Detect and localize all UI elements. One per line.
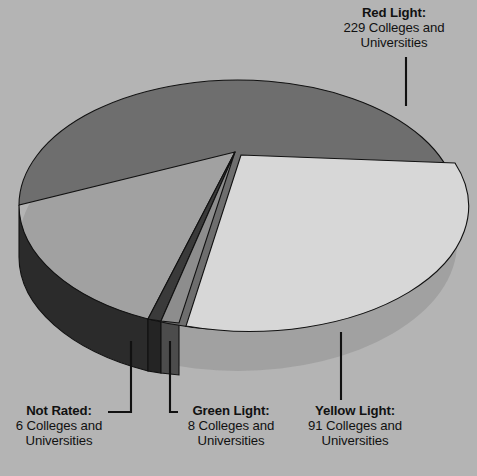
callout-label-yellow-light: Yellow Light: 91 Colleges and Universiti… [288, 404, 422, 448]
callout-line2-red-light: Universities [318, 36, 470, 51]
callout-title-green-light: Green Light: [168, 404, 294, 419]
callout-line2-green-light: Universities [168, 434, 294, 449]
callout-label-green-light: Green Light: 8 Colleges and Universities [168, 404, 294, 448]
callout-label-red-light: Red Light: 229 Colleges and Universities [318, 6, 470, 50]
callout-title-not-rated: Not Rated: [0, 404, 120, 419]
callout-title-yellow-light: Yellow Light: [288, 404, 422, 419]
callout-line1-yellow-light: 91 Colleges and [288, 419, 422, 434]
slice-side-not-rated [148, 319, 161, 373]
callout-line1-not-rated: 6 Colleges and [0, 419, 120, 434]
callout-line1-red-light: 229 Colleges and [318, 21, 470, 36]
callout-line2-not-rated: Universities [0, 434, 120, 449]
pie-chart-figure: Red Light: 229 Colleges and Universities… [0, 0, 477, 476]
callout-line1-green-light: 8 Colleges and [168, 419, 294, 434]
callout-line2-yellow-light: Universities [288, 434, 422, 449]
callout-title-red-light: Red Light: [318, 6, 470, 21]
callout-label-not-rated: Not Rated: 6 Colleges and Universities [0, 404, 120, 448]
